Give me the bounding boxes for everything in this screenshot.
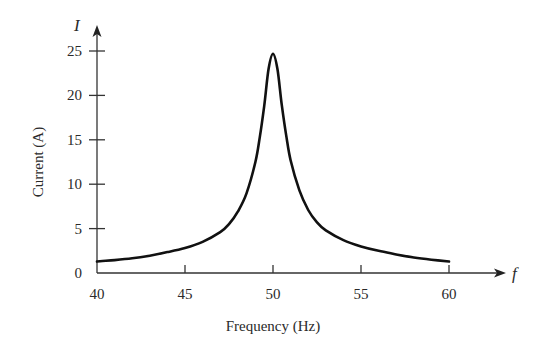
x-tick-label: 40 [90, 286, 105, 302]
y-tick-label: 25 [67, 43, 82, 59]
y-axis-title: Current (A) [30, 127, 47, 197]
x-tick-label: 50 [266, 286, 281, 302]
resonance-chart: 4045505560 0510152025 f I Frequency (Hz)… [0, 0, 550, 357]
y-tick-label: 15 [67, 132, 82, 148]
axes [93, 25, 507, 278]
current-curve [97, 54, 449, 262]
y-ticks: 0510152025 [67, 43, 105, 281]
x-tick-label: 60 [442, 286, 457, 302]
x-tick-label: 55 [354, 286, 369, 302]
y-axis-symbol: I [73, 16, 81, 35]
y-tick-label: 20 [67, 87, 82, 103]
y-tick-label: 0 [75, 265, 83, 281]
x-tick-label: 45 [178, 286, 193, 302]
y-tick-label: 5 [75, 221, 83, 237]
y-tick-label: 10 [67, 176, 82, 192]
x-axis-symbol: f [512, 264, 519, 283]
x-axis-title: Frequency (Hz) [226, 318, 321, 335]
x-ticks: 4045505560 [90, 265, 457, 302]
